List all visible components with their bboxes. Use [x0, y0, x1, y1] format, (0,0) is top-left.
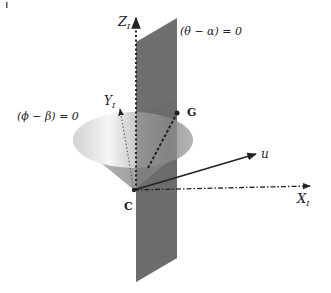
y-label-text: Y: [104, 94, 112, 108]
diagram-canvas: [0, 0, 331, 293]
point-g-label: G: [187, 107, 196, 118]
x-label-subscript: I: [306, 199, 309, 208]
plane-label: (θ − α) = 0: [180, 26, 242, 37]
corner-mark: [6, 2, 8, 8]
x-label-text: X: [297, 191, 306, 206]
y-axis-label: YI: [104, 95, 115, 110]
z-axis-label: ZI: [118, 15, 130, 31]
x-axis-label: XI: [297, 192, 309, 208]
cone-label: (ϕ − β) = 0: [17, 111, 79, 122]
y-label-subscript: I: [112, 101, 115, 110]
z-label-subscript: I: [127, 22, 130, 31]
plane-front-overlay: [136, 100, 177, 282]
point-c: [132, 188, 136, 192]
point-g: [175, 111, 180, 116]
z-label-text: Z: [118, 14, 127, 29]
point-c-label: C: [124, 201, 133, 212]
u-vector-label: u: [261, 148, 269, 160]
